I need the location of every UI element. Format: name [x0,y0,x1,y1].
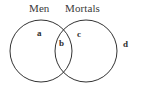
region-label-a: a [37,29,42,38]
region-label-b: b [59,39,64,48]
region-label-c: c [77,30,81,39]
region-label-d: d [123,40,128,49]
circle-mortals [55,20,117,82]
set-title-men: Men [29,2,49,14]
venn-diagram: Men Mortals a b c d [0,0,141,88]
set-title-mortals: Mortals [65,2,100,14]
